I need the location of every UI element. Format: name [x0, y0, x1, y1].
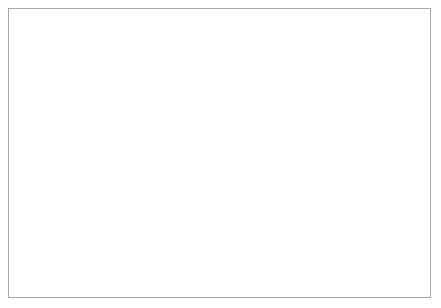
- chart-svg: [0, 0, 441, 308]
- line-chart: [0, 0, 441, 308]
